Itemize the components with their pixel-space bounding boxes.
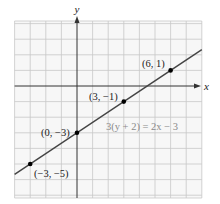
y-axis-arrow-icon <box>75 16 80 23</box>
x-axis-label: x <box>203 80 209 92</box>
point-neg3-neg5 <box>28 162 33 167</box>
point-6-1 <box>168 68 173 73</box>
y-axis-label: y <box>74 3 80 15</box>
point-label-6-1: (6, 1) <box>142 58 165 70</box>
equation-label: 3(y + 2) = 2x − 3 <box>106 121 178 133</box>
point-label-3-neg1: (3, −1) <box>89 91 118 103</box>
point-0-neg3 <box>75 131 80 136</box>
point-label-0-neg3: (0, −3) <box>41 127 70 139</box>
point-label-neg3-neg5: (−3, −5) <box>34 168 69 180</box>
point-3-neg1 <box>122 99 127 104</box>
coordinate-plane: x y (−3, −5) (0, −3) (3, −1) (6, 1) 3(y … <box>0 0 220 204</box>
